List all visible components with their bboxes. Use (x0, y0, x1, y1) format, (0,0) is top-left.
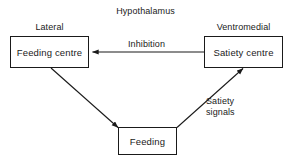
node-satiety-centre: Satiety centre (204, 36, 283, 68)
node-caption-ventromedial: Ventromedial (204, 22, 283, 32)
edge-label-inhibition: Inhibition (89, 39, 204, 49)
edge-feeding-drive-arrow (51, 68, 118, 128)
edge-label-satiety-signals-line1: Satiety (206, 96, 235, 107)
edge-label-satiety-signals-line2: signals (206, 107, 235, 118)
edge-label-satiety-signals: Satiety signals (206, 96, 235, 118)
node-caption-lateral: Lateral (10, 22, 89, 32)
node-feeding-centre: Feeding centre (10, 36, 89, 68)
hypothalamus-feeding-regulation-diagram: Hypothalamus Lateral Ventromedial Feedin… (0, 0, 291, 163)
node-feeding: Feeding (118, 127, 177, 155)
diagram-title: Hypothalamus (0, 6, 291, 16)
